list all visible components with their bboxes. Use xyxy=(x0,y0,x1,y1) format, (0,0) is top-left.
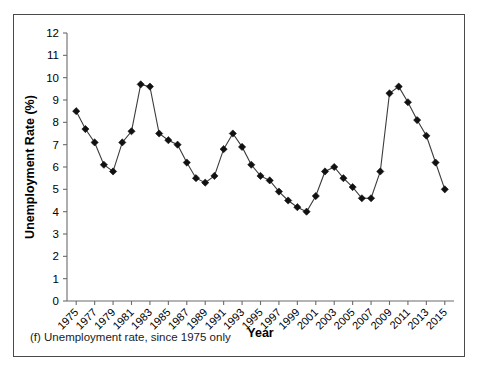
data-series xyxy=(73,81,449,216)
y-axis-title: Unemployment Rate (%) xyxy=(23,95,37,239)
y-tick-label: 12 xyxy=(46,27,59,39)
figure-panel: 0123456789101112 19751977197919811983198… xyxy=(13,14,465,357)
y-tick-label: 4 xyxy=(53,206,60,218)
data-point-marker xyxy=(367,195,374,202)
y-tick-label: 0 xyxy=(53,295,59,307)
data-point-marker xyxy=(238,143,245,150)
data-point-marker xyxy=(414,117,421,124)
data-point-marker xyxy=(82,125,89,132)
data-point-marker xyxy=(312,192,319,199)
y-tick-label: 10 xyxy=(46,72,59,84)
data-point-marker xyxy=(229,130,236,137)
data-point-marker xyxy=(91,139,98,146)
data-point-marker xyxy=(294,204,301,211)
y-tick-label: 2 xyxy=(53,250,59,262)
data-point-marker xyxy=(109,168,116,175)
data-point-marker xyxy=(100,161,107,168)
data-point-marker xyxy=(202,179,209,186)
data-point-marker xyxy=(386,90,393,97)
y-tick-label: 5 xyxy=(53,183,59,195)
data-point-marker xyxy=(211,172,218,179)
y-tick-label: 1 xyxy=(53,273,59,285)
y-tick-labels: 0123456789101112 xyxy=(46,27,59,307)
data-point-marker xyxy=(423,132,430,139)
data-point-marker xyxy=(377,168,384,175)
chart-plot-area: 0123456789101112 19751977197919811983198… xyxy=(14,15,466,358)
axes-group xyxy=(63,33,454,305)
data-point-marker xyxy=(192,175,199,182)
data-point-marker xyxy=(441,186,448,193)
y-tick-label: 9 xyxy=(53,94,59,106)
data-point-marker xyxy=(303,208,310,215)
data-point-marker xyxy=(404,99,411,106)
x-tick-label: 2015 xyxy=(423,306,449,332)
data-point-marker xyxy=(165,137,172,144)
data-point-marker xyxy=(432,159,439,166)
y-tick-label: 3 xyxy=(53,228,59,240)
y-tick-label: 8 xyxy=(53,116,59,128)
figure-caption: (f) Unemployment rate, since 1975 only xyxy=(30,331,231,343)
y-tick-label: 6 xyxy=(53,161,59,173)
x-axis-title: Year xyxy=(247,326,274,340)
y-tick-label: 11 xyxy=(47,49,59,61)
data-point-marker xyxy=(137,81,144,88)
data-point-marker xyxy=(146,83,153,90)
data-point-marker xyxy=(321,168,328,175)
data-point-marker xyxy=(174,141,181,148)
data-point-marker xyxy=(156,130,163,137)
data-point-marker xyxy=(220,146,227,153)
data-point-marker xyxy=(395,83,402,90)
series-line xyxy=(76,84,445,211)
data-point-marker xyxy=(73,108,80,115)
data-point-marker xyxy=(183,159,190,166)
unemployment-line-chart: 0123456789101112 19751977197919811983198… xyxy=(14,15,466,358)
y-tick-label: 7 xyxy=(53,139,59,151)
